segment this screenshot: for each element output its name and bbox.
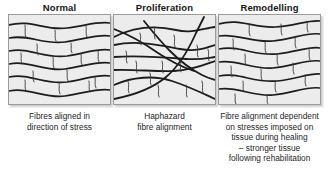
- fibre-alignment-figure: Normal: [0, 0, 329, 185]
- caption-line: Fibres aligned in: [8, 111, 111, 122]
- panel-proliferation: Proliferation: [113, 0, 216, 185]
- remodelling-fibres-svg: [219, 15, 320, 104]
- caption-line: – stronger tissue: [218, 143, 321, 154]
- caption-line: fibre alignment: [113, 122, 216, 133]
- panel-illustration-proliferation: [113, 14, 216, 105]
- panel-illustration-remodelling: [218, 14, 321, 105]
- caption-line: Fibre alignment dependent: [218, 111, 321, 122]
- caption-line: tissue during healing: [218, 132, 321, 143]
- panel-title-remodelling: Remodelling: [218, 0, 321, 14]
- panel-caption-proliferation: Haphazard fibre alignment: [113, 105, 216, 132]
- panel-caption-remodelling: Fibre alignment dependent on stresses im…: [218, 105, 321, 164]
- panel-title-normal: Normal: [8, 0, 111, 14]
- panel-caption-normal: Fibres aligned in direction of stress: [8, 105, 111, 132]
- normal-fibres-svg: [9, 15, 110, 104]
- caption-line: on stresses imposed on: [218, 122, 321, 133]
- panel-illustration-normal: [8, 14, 111, 105]
- proliferation-fibres-svg: [114, 15, 215, 104]
- caption-line: following rehabilitation: [218, 153, 321, 164]
- panel-title-proliferation: Proliferation: [113, 0, 216, 14]
- panel-remodelling: Remodelling: [218, 0, 321, 185]
- caption-line: Haphazard: [113, 111, 216, 122]
- caption-line: direction of stress: [8, 122, 111, 133]
- panel-normal: Normal: [8, 0, 111, 185]
